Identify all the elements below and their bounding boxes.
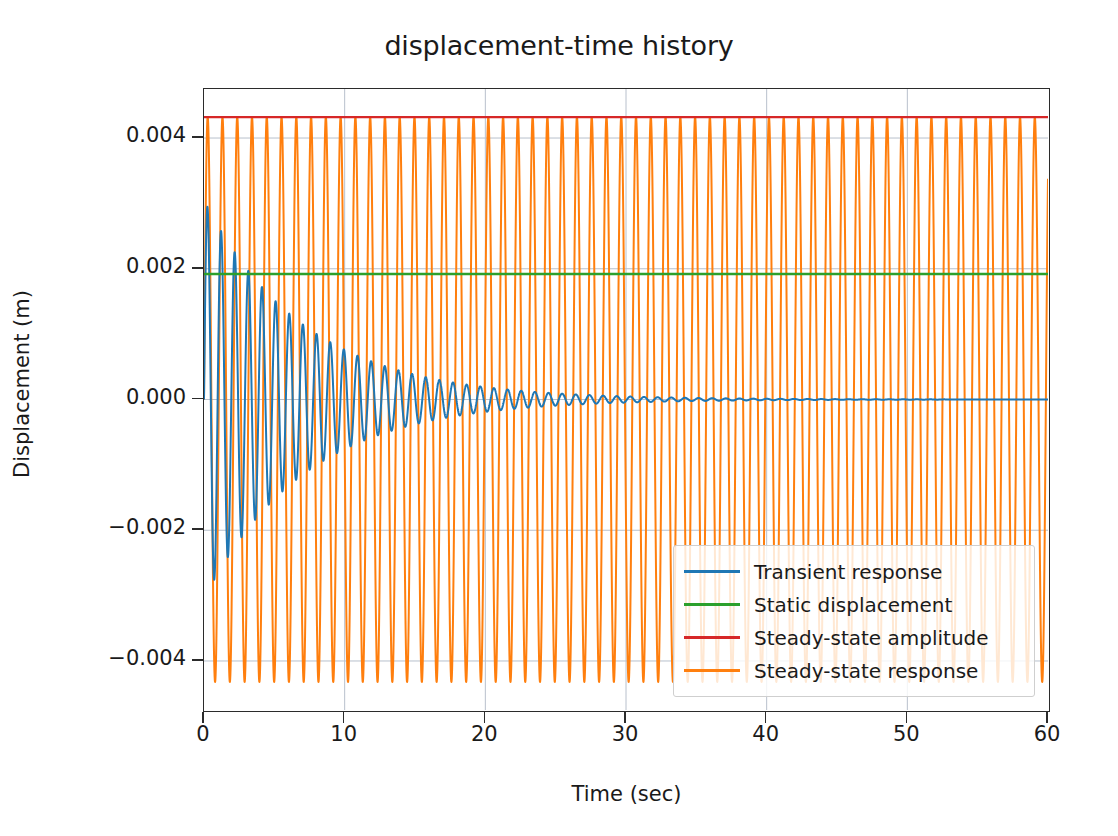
legend-item[interactable]: Static displacement (684, 588, 1022, 621)
y-tick-mark (192, 528, 203, 530)
figure-canvas: displacement-time history Displacement (… (0, 0, 1118, 836)
x-tick-label: 0 (163, 722, 243, 746)
y-tick-label: 0.004 (0, 123, 208, 147)
legend-color-swatch (684, 636, 740, 639)
legend-color-swatch (684, 669, 740, 672)
x-tick-label: 30 (585, 722, 665, 746)
page-title: displacement-time history (0, 30, 1118, 61)
x-tick-label: 40 (726, 722, 806, 746)
y-tick-mark (192, 398, 203, 400)
x-tick-mark (765, 712, 767, 723)
legend-item-label: Steady-state response (754, 659, 978, 683)
x-tick-mark (484, 712, 486, 723)
legend-item-label: Transient response (754, 560, 942, 584)
y-tick-mark (192, 659, 203, 661)
y-tick-label: 0.002 (0, 254, 208, 278)
legend-item-label: Steady-state amplitude (754, 626, 989, 650)
legend-item[interactable]: Steady-state amplitude (684, 621, 1022, 654)
x-tick-label: 50 (866, 722, 946, 746)
x-tick-label: 20 (444, 722, 524, 746)
legend-item[interactable]: Steady-state response (684, 654, 1022, 687)
y-tick-label: −0.002 (0, 515, 208, 539)
y-tick-mark (192, 267, 203, 269)
x-tick-mark (1046, 712, 1048, 723)
y-tick-label: −0.004 (0, 646, 208, 670)
legend-color-swatch (684, 570, 740, 573)
x-tick-label: 60 (1007, 722, 1087, 746)
legend-item[interactable]: Transient response (684, 555, 1022, 588)
x-tick-mark (202, 712, 204, 723)
y-tick-label: 0.000 (0, 385, 208, 409)
x-tick-mark (906, 712, 908, 723)
y-tick-mark (192, 136, 203, 138)
legend-item-label: Static displacement (754, 593, 952, 617)
x-tick-mark (624, 712, 626, 723)
legend-color-swatch (684, 603, 740, 606)
x-tick-mark (343, 712, 345, 723)
x-axis-label: Time (sec) (203, 782, 1050, 806)
x-tick-label: 10 (304, 722, 384, 746)
legend[interactable]: Transient responseStatic displacementSte… (673, 545, 1035, 697)
